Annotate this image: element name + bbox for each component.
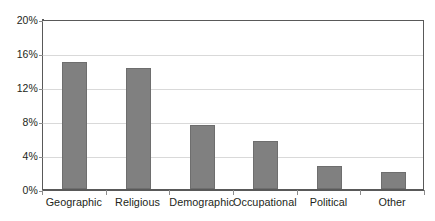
x-axis-tick-label: Demographic bbox=[169, 195, 233, 209]
x-axis-tick-labels: GeographicReligiousDemographicOccupation… bbox=[42, 195, 424, 217]
x-axis-tick-label: Geographic bbox=[42, 195, 106, 209]
x-axis-tick-label: Other bbox=[360, 195, 424, 209]
bar-chart: 0%4%8%12%16%20% GeographicReligiousDemog… bbox=[0, 0, 435, 221]
x-axis-tick-mark bbox=[424, 190, 425, 195]
x-axis-ticks bbox=[0, 0, 435, 221]
x-axis-tick-label: Political bbox=[297, 195, 361, 209]
x-axis-tick-label: Religious bbox=[106, 195, 170, 209]
x-axis-tick-label: Occupational bbox=[233, 195, 297, 209]
